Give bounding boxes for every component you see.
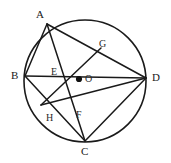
center-label-o: O — [85, 74, 92, 84]
vertex-label-d: D — [152, 72, 160, 83]
vertex-label-c: C — [81, 146, 88, 157]
intersection-label-e: E — [51, 67, 57, 77]
vertex-label-a: A — [36, 9, 44, 20]
center-point-dot — [76, 76, 82, 82]
vertex-label-b: B — [11, 70, 18, 81]
chord-AB — [25, 24, 47, 76]
chord-H-to-D — [41, 78, 146, 105]
intersection-label-f: F — [76, 110, 82, 120]
geometry-figure: A B C D E G F H O — [0, 0, 171, 163]
chord-CD — [85, 78, 146, 141]
intersection-label-h: H — [46, 113, 53, 123]
intersection-label-g: G — [99, 39, 106, 49]
